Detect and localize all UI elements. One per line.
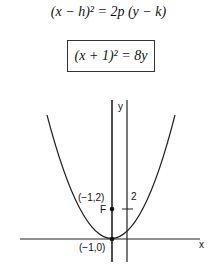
focus-point — [110, 207, 115, 212]
vertex-point — [110, 237, 115, 242]
vertex-coords-label: (−1,0) — [79, 242, 105, 253]
tick-label: 2 — [131, 191, 137, 202]
x-axis-label: x — [199, 239, 204, 250]
y-axis-label: y — [118, 101, 123, 112]
parabola-graph: y x (−1,2) F (−1,0) 2 — [0, 0, 217, 269]
focus-coords-label: (−1,2) — [78, 192, 104, 203]
focus-label: F — [100, 204, 106, 215]
parabola-curve — [47, 115, 175, 239]
